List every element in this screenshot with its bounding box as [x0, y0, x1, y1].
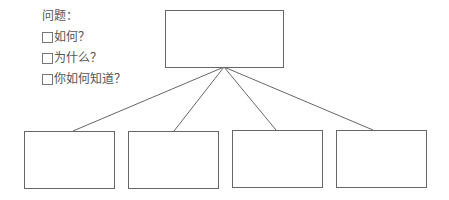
bottom-box-2[interactable]	[129, 132, 219, 189]
bottom-box-3[interactable]	[233, 131, 323, 188]
bottom-box-1[interactable]	[25, 132, 115, 189]
tree-diagram	[0, 0, 449, 200]
connector-line-4	[224, 67, 373, 130]
top-box[interactable]	[166, 11, 284, 68]
bottom-box-4[interactable]	[337, 131, 427, 188]
diagram-canvas: 问题： 如何？ 为什么？ 你如何知道？	[0, 0, 449, 200]
connector-line-2	[174, 67, 224, 131]
connector-line-3	[224, 67, 276, 130]
connector-line-1	[73, 67, 224, 131]
